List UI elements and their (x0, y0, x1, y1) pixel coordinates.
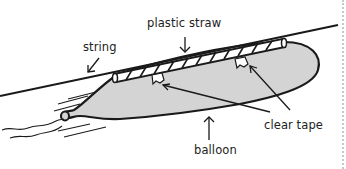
balloon-rocket-diagram: plastic straw string clear tape balloon (0, 0, 346, 169)
label-plastic-straw: plastic straw (147, 16, 221, 30)
label-clear-tape: clear tape (264, 118, 323, 132)
label-string: string (83, 40, 117, 54)
dotted-border (342, 0, 344, 169)
label-balloon: balloon (194, 143, 237, 157)
